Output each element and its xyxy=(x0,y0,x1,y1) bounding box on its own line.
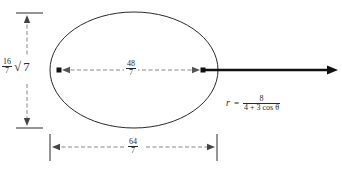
major-axis-fraction: 64 7 xyxy=(128,138,138,155)
right-focus-dot xyxy=(201,68,206,73)
major-axis-label: 64 7 xyxy=(126,138,140,155)
equation-denominator-variable: θ xyxy=(275,103,279,112)
equation-denominator-b: 3 xyxy=(257,103,261,112)
major-axis-arrowhead-right xyxy=(207,144,215,150)
figure-canvas xyxy=(0,0,342,174)
major-axis-denominator: 7 xyxy=(128,146,138,155)
polar-equation: r= 8 4 + 3 cos θ xyxy=(226,95,280,112)
polar-axis-arrowhead xyxy=(327,66,338,75)
left-focus-dot xyxy=(57,68,62,73)
major-axis-arrowhead-left xyxy=(52,144,60,150)
focal-distance-arrowhead-left xyxy=(62,67,70,73)
equation-fraction: 8 4 + 3 cos θ xyxy=(243,95,280,112)
minor-axis-arrowhead-top xyxy=(24,15,30,23)
minor-axis-label: 16 7 √7 xyxy=(2,58,30,75)
polar-conic-figure: 16 7 √7 48 7 64 7 r= 8 4 + 3 cos θ xyxy=(0,0,342,174)
equation-relation: = xyxy=(234,98,239,108)
radicand: 7 xyxy=(23,59,30,74)
focal-distance-label: 48 7 xyxy=(124,60,138,77)
major-axis-numerator: 64 xyxy=(128,138,138,146)
minor-axis-denominator: 7 xyxy=(2,66,12,75)
focal-distance-fraction: 48 7 xyxy=(126,60,136,77)
radical-symbol: √ xyxy=(14,59,21,74)
equation-denominator: 4 + 3 cos θ xyxy=(243,103,280,112)
equation-denominator-a: 4 xyxy=(244,103,248,112)
minor-axis-numerator: 16 xyxy=(2,58,12,66)
focal-distance-denominator: 7 xyxy=(126,68,136,77)
equation-lhs: r xyxy=(226,97,230,108)
equation-denominator-plus: + xyxy=(250,103,255,112)
minor-axis-arrowhead-bottom xyxy=(24,118,30,126)
focal-distance-numerator: 48 xyxy=(126,60,136,68)
equation-denominator-function: cos xyxy=(263,103,274,112)
minor-axis-coefficient-fraction: 16 7 xyxy=(2,58,12,75)
focal-distance-arrowhead-right xyxy=(192,67,200,73)
equation-numerator: 8 xyxy=(243,95,280,103)
